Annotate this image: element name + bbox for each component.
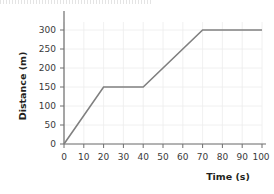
- x-tick-label: 70: [197, 152, 209, 162]
- y-tick-label: 200: [39, 63, 56, 73]
- x-tick-label: 90: [236, 152, 248, 162]
- y-tick-label: 50: [45, 120, 57, 130]
- x-tick-label: 50: [157, 152, 169, 162]
- x-axis-tick-labels: 0 10 20 30 40 50 60 70 80 90 100: [61, 152, 270, 162]
- x-tick-label: 100: [252, 152, 269, 162]
- distance-time-line-chart: 0 50 100 150 200 250 300 0 10 20 30 40 5…: [0, 0, 274, 194]
- x-tick-label: 30: [118, 152, 130, 162]
- x-axis-ticks: [64, 144, 262, 148]
- x-tick-label: 60: [177, 152, 189, 162]
- x-tick-label: 20: [98, 152, 110, 162]
- y-tick-label: 150: [39, 82, 56, 92]
- y-tick-label: 0: [50, 139, 56, 149]
- x-tick-label: 40: [137, 152, 149, 162]
- y-tick-label: 100: [39, 101, 56, 111]
- x-tick-label: 0: [61, 152, 67, 162]
- x-tick-label: 80: [217, 152, 229, 162]
- x-axis-title: Time (s): [206, 171, 250, 182]
- y-tick-label: 250: [39, 44, 56, 54]
- y-axis-title: Distance (m): [17, 52, 28, 120]
- chart-figure: 0 50 100 150 200 250 300 0 10 20 30 40 5…: [0, 0, 274, 194]
- y-axis-tick-labels: 0 50 100 150 200 250 300: [39, 25, 56, 149]
- y-tick-label: 300: [39, 25, 56, 35]
- x-tick-label: 10: [78, 152, 90, 162]
